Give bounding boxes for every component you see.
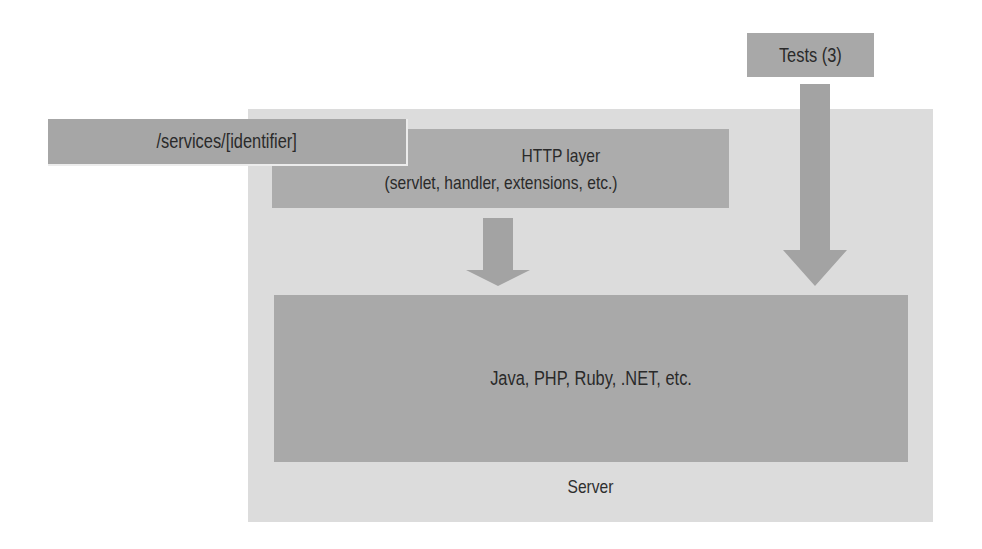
server-label: Server — [310, 476, 872, 498]
tests-box: Tests (3) — [747, 33, 874, 77]
language-layer-box: Java, PHP, Ruby, .NET, etc. — [274, 295, 908, 462]
language-layer-label: Java, PHP, Ruby, .NET, etc. — [490, 367, 692, 390]
tests-label: Tests (3) — [779, 44, 842, 67]
tests-arrow-down-icon — [780, 84, 850, 288]
http-layer-title: HTTP layer — [521, 143, 600, 169]
service-path-label: /services/[identifier] — [157, 130, 297, 153]
arrow-down-icon — [462, 216, 534, 288]
service-path-box: /services/[identifier] — [48, 119, 408, 166]
http-layer-subtitle: (servlet, handler, extensions, etc.) — [385, 169, 618, 197]
